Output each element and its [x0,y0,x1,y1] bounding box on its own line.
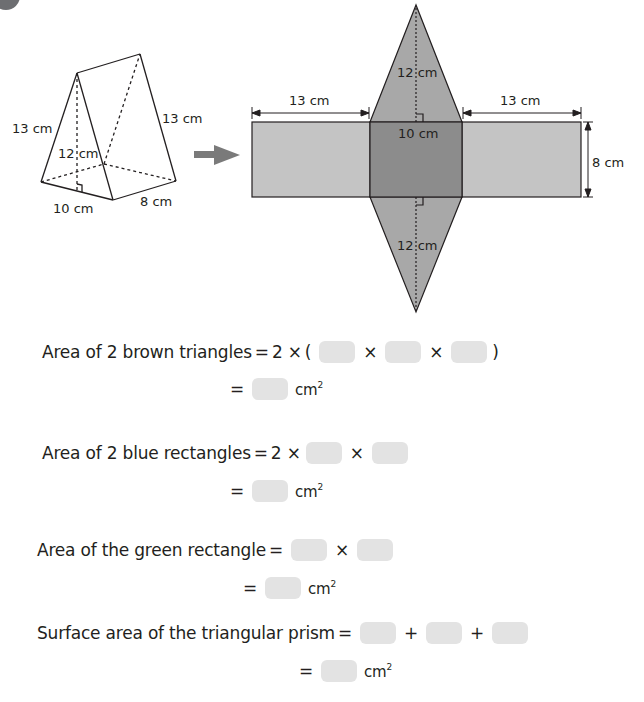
equation-blue-rectangles: Area of 2 blue rectangles = 2 × × [42,438,413,468]
equation-blue-rectangles-result: = cm2 [227,476,323,506]
equation-brown-triangles-result: = cm2 [227,374,323,404]
triangular-prism [41,54,176,200]
answer-box[interactable] [492,622,528,644]
net-top-height-label: 12 cm [397,65,438,80]
net-left-width-label: 13 cm [289,93,330,108]
prism-slant-left-label: 13 cm [12,121,53,136]
right-rectangle [462,122,581,197]
net-bottom-height-label: 12 cm [397,238,438,253]
unit-label: cm2 [295,380,323,399]
answer-box[interactable] [321,660,357,682]
prism-length-label: 8 cm [140,194,172,209]
answer-box[interactable] [360,622,396,644]
equation-brown-triangles: Area of 2 brown triangles = 2 × ( × × ) [42,337,499,367]
prism-figure: 13 cm 13 cm 12 cm 10 cm 8 cm [0,0,644,320]
prism-net [252,5,581,312]
prism-base-label: 10 cm [53,201,94,216]
left-rectangle [252,122,370,197]
equation-surface-area: Surface area of the triangular prism = +… [37,618,533,648]
equation-label: Area of 2 brown triangles [42,342,252,362]
prism-height-label: 12 cm [58,146,99,161]
equation-surface-area-result: = cm2 [296,656,392,686]
answer-box[interactable] [385,341,421,363]
answer-box[interactable] [372,442,408,464]
equation-green-rectangle-result: = cm2 [240,573,336,603]
net-right-width-label: 13 cm [500,93,541,108]
equation-label: Area of the green rectangle [37,540,266,560]
answer-box[interactable] [426,622,462,644]
unit-label: cm2 [295,482,323,501]
unit-label: cm2 [308,579,336,598]
equation-label: Area of 2 blue rectangles [42,443,251,463]
unit-label: cm2 [364,662,392,681]
prism-slant-right-label: 13 cm [162,111,203,126]
net-center-width-label: 10 cm [398,126,439,141]
arrow-right-icon [194,145,240,165]
answer-box[interactable] [306,442,342,464]
equation-green-rectangle: Area of the green rectangle = × [37,535,398,565]
answer-box[interactable] [357,539,393,561]
answer-box[interactable] [319,341,355,363]
answer-box[interactable] [451,341,487,363]
net-rect-height-label: 8 cm [592,155,624,170]
answer-box[interactable] [252,378,288,400]
answer-box[interactable] [291,539,327,561]
answer-box[interactable] [252,480,288,502]
answer-box[interactable] [265,577,301,599]
equation-label: Surface area of the triangular prism [37,623,335,643]
